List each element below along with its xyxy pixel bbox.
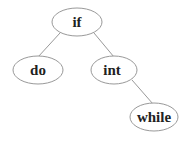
node-int-label: int (103, 62, 121, 78)
node-if-label: if (72, 14, 82, 30)
edge-int-while (132, 80, 153, 104)
tree-diagram: if do int while (0, 0, 190, 141)
edge-if-int (94, 33, 114, 57)
edge-if-do (38, 33, 60, 57)
node-do-label: do (30, 62, 46, 78)
node-while-label: while (137, 109, 172, 125)
